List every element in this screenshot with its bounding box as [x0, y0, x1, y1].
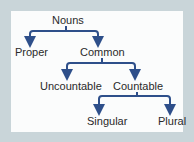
- node-countable: Countable: [113, 80, 163, 92]
- bracket-countable-children: [99, 96, 170, 110]
- node-nouns: Nouns: [52, 14, 84, 26]
- node-uncountable: Uncountable: [40, 80, 102, 92]
- node-singular: Singular: [87, 115, 127, 127]
- node-common: Common: [80, 46, 125, 58]
- node-plural: Plural: [158, 115, 186, 127]
- bracket-nouns-children: [30, 31, 98, 42]
- bracket-common-children: [67, 63, 135, 75]
- node-proper: Proper: [15, 46, 48, 58]
